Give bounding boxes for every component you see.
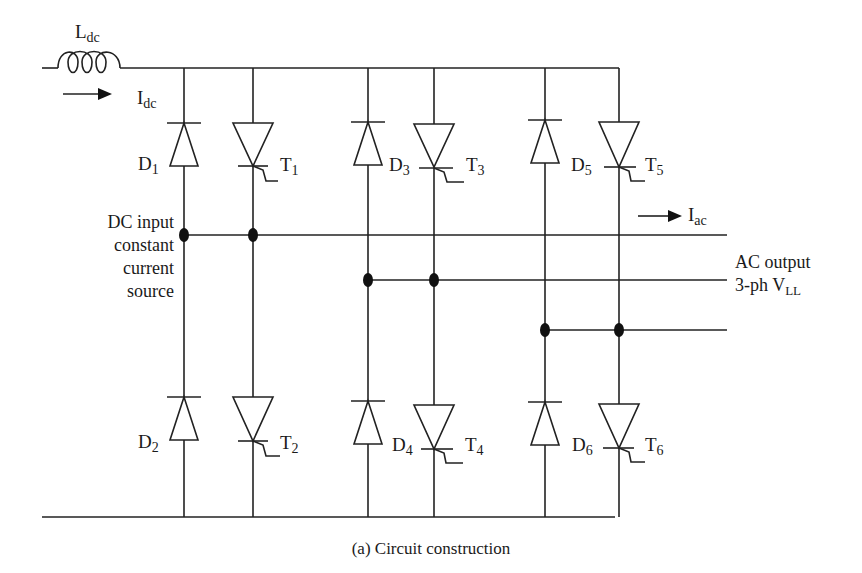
source-line-4: source (96, 280, 174, 303)
label-d5: D5 (571, 155, 592, 178)
label-ldc: Ldc (75, 22, 100, 45)
thyristor-t1-icon (233, 123, 278, 181)
inductor-ldc (42, 52, 120, 73)
ac-output-line-2: 3-ph VLL (735, 274, 811, 302)
diode-d3-icon (351, 122, 385, 165)
diode-d1-icon (167, 123, 201, 166)
thyristor-t2-icon (233, 397, 280, 456)
label-t3: T3 (466, 155, 485, 178)
diode-d4-icon (351, 401, 385, 444)
label-d3: D3 (389, 155, 410, 178)
idc-arrow-icon (63, 88, 112, 100)
label-idc: Idc (137, 88, 157, 111)
diode-d2-icon (167, 397, 201, 440)
label-t1: T1 (280, 155, 299, 178)
label-d1: D1 (138, 154, 159, 177)
diode-d5-icon (528, 120, 562, 163)
phase-lines (184, 235, 727, 330)
source-line-2: constant (96, 234, 174, 257)
label-d2: D2 (138, 432, 159, 455)
source-line-3: current (96, 257, 174, 280)
ac-output-label: AC output 3-ph VLL (735, 251, 811, 302)
junction-dots (179, 228, 624, 337)
label-d4: D4 (392, 435, 413, 458)
thyristor-t3-icon (414, 124, 464, 182)
thyristor-t5-icon (599, 122, 645, 181)
diode-d6-icon (528, 402, 562, 445)
thyristor-t6-icon (599, 404, 645, 462)
label-d6: D6 (572, 435, 593, 458)
label-t5: T5 (645, 155, 664, 178)
ac-output-line-1: AC output (735, 251, 811, 274)
dc-source-label: DC input constant current source (96, 211, 194, 303)
figure-caption: (a) Circuit construction (0, 539, 862, 559)
label-iac: Iac (688, 205, 707, 228)
source-line-1: DC input (96, 211, 174, 234)
label-t4: T4 (465, 435, 484, 458)
iac-arrow-icon (638, 210, 682, 222)
label-t6: T6 (645, 435, 664, 458)
label-t2: T2 (280, 433, 299, 456)
thyristor-t4-icon (414, 405, 463, 463)
